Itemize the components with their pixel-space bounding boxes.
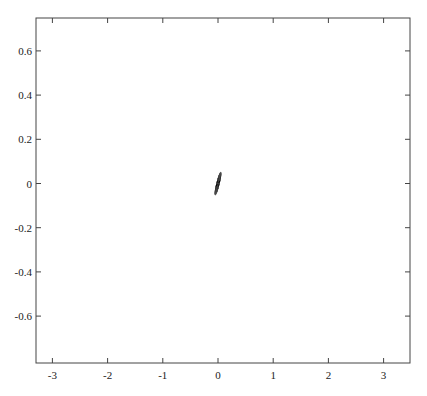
attractor-trajectory [215, 172, 221, 195]
x-tick-label: 0 [215, 369, 221, 381]
y-tick-label: -0.4 [15, 266, 33, 278]
x-tick-label: -3 [48, 369, 58, 381]
y-tick-label: 0.6 [18, 45, 32, 57]
chart-canvas: -3-2-10123 0.60.40.20-0.2-0.4-0.6 [0, 0, 427, 396]
y-tick-label: 0.4 [18, 89, 32, 101]
x-tick-label: 2 [326, 369, 332, 381]
plot-frame [36, 18, 410, 363]
x-tick-label: -1 [158, 369, 167, 381]
y-axis: 0.60.40.20-0.2-0.4-0.6 [15, 45, 410, 322]
y-tick-label: -0.6 [15, 310, 33, 322]
x-tick-label: 1 [270, 369, 276, 381]
x-tick-label: 3 [381, 369, 387, 381]
x-tick-label: -2 [103, 369, 112, 381]
x-axis: -3-2-10123 [48, 18, 387, 381]
y-tick-label: -0.2 [15, 222, 32, 234]
y-tick-label: 0.2 [18, 133, 32, 145]
y-tick-label: 0 [27, 178, 33, 190]
